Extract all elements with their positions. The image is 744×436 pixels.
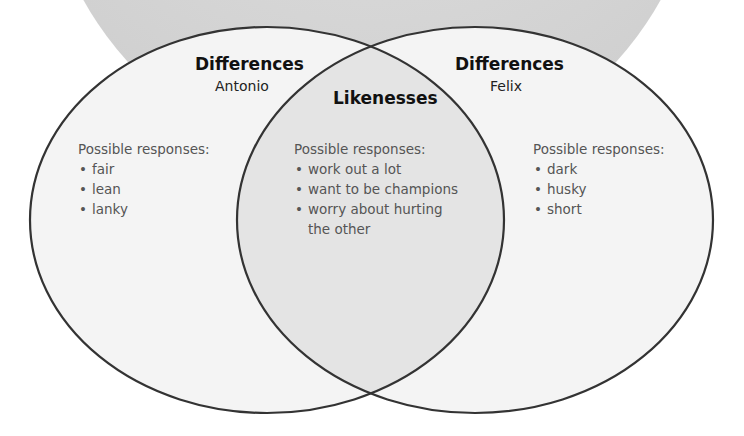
right-response-item: husky [533,179,665,199]
right-response-item: short [533,199,665,219]
overlap-response-continuation: the other [294,219,458,239]
right-set-subtitle: Felix [490,78,522,94]
left-response-item: fair [78,159,210,179]
right-response-item: dark [533,159,665,179]
overlap-response-item: worry about hurting [294,199,458,219]
overlap-response-item: want to be champions [294,179,458,199]
right-set-title: Differences [455,54,564,74]
left-response-item: lean [78,179,210,199]
left-set-subtitle: Antonio [215,78,269,94]
left-responses: Possible responses: fair lean lanky [78,139,210,219]
left-responses-heading: Possible responses: [78,139,210,159]
left-response-item: lanky [78,199,210,219]
overlap-title: Likenesses [333,88,438,108]
overlap-responses-heading: Possible responses: [294,139,458,159]
right-responses: Possible responses: dark husky short [533,139,665,219]
overlap-responses: Possible responses: work out a lot want … [294,139,458,239]
right-responses-heading: Possible responses: [533,139,665,159]
left-set-title: Differences [195,54,304,74]
overlap-response-item: work out a lot [294,159,458,179]
